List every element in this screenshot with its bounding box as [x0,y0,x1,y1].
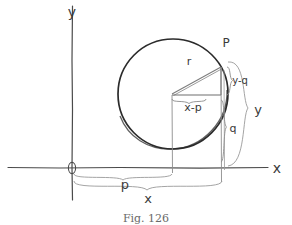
figure-caption: Fig. 126 [123,212,169,225]
point-drop-line [221,67,222,182]
radius-line [172,67,221,94]
radius-line-overstroke [174,69,222,96]
horizontal-leg-label: x-p [184,101,201,114]
geometry-figure: y x P r x-p y-q q y p x Fig. 126 [0,0,292,225]
circle-outline-overstroke [120,90,227,149]
labels-group: y x P r x-p y-q q y p x Fig. 126 [68,4,281,225]
center-abscissa-label: p [121,177,129,192]
y-axis-label: y [68,4,76,20]
x-axis-label: x [273,160,281,176]
center-height-label: q [230,122,237,135]
point-abscissa-label: x [144,191,152,206]
vertical-leg-label: y-q [232,75,248,86]
radius-label: r [187,55,192,68]
x-axis-line [8,168,268,169]
y-axis-line [72,6,73,200]
right-triangle-group [172,67,222,96]
point-p-label: P [222,36,229,50]
center-drop-line [172,95,173,173]
brace-x-total [74,181,222,190]
total-height-label: y [254,102,262,117]
